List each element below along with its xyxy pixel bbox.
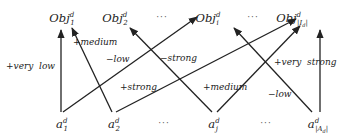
edge-aj-to-obj2 <box>130 28 212 112</box>
attributes-row: ad1ad2adjad|Ad|······ <box>56 117 328 134</box>
ellipsis-dots: ··· <box>247 12 259 22</box>
objective-node-objI: Objd|Id| <box>276 11 308 28</box>
ellipsis-dots: ··· <box>260 118 272 128</box>
objective-node-obj1: Objd1 <box>49 11 74 27</box>
ellipsis-dots: ··· <box>158 118 170 128</box>
objective-node-obj2: Objd2 <box>102 11 128 27</box>
edge-label-a1-to-obj1: +very low <box>6 61 55 71</box>
attribute-node-aA: ad|Ad| <box>308 117 328 134</box>
edge-label-aA-to-obji: −low <box>268 89 292 99</box>
edge-label-aj-to-obj2: −strong <box>160 53 197 63</box>
attribute-objective-diagram: +very low−low+medium+strong−strong+mediu… <box>0 0 356 140</box>
edge-label-a1-to-obji: −low <box>106 54 130 64</box>
edge-label-aj-to-objI: +medium <box>203 82 247 92</box>
attribute-node-a2: ad2 <box>108 117 120 133</box>
attribute-node-a1: ad1 <box>56 117 68 133</box>
edge-label-a2-to-objI: +strong <box>120 82 157 92</box>
edge-label-aA-to-objI: +very strong <box>274 57 337 67</box>
edge-a1-to-obji <box>63 17 197 112</box>
objectives-row: Objd1Objd2ObjdiObjd|Id|······ <box>49 11 307 28</box>
attribute-node-aj: adj <box>208 117 220 133</box>
ellipsis-dots: ··· <box>156 12 168 22</box>
objective-node-obji: Objdi <box>196 11 221 27</box>
edge-labels-group: +very low−low+medium+strong−strong+mediu… <box>6 37 337 99</box>
edge-aA-to-obji <box>234 28 312 112</box>
edge-label-a2-to-obj1: +medium <box>73 37 117 47</box>
